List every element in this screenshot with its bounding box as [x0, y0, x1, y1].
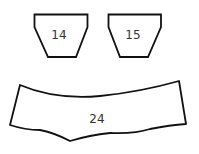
- piece-24-label: 24: [89, 112, 104, 126]
- piece-15-label: 15: [125, 28, 140, 42]
- piece-15[interactable]: 15: [109, 15, 162, 58]
- puzzle-diagram: 14 15 24: [0, 0, 199, 154]
- piece-24[interactable]: 24: [10, 81, 186, 141]
- piece-14[interactable]: 14: [35, 15, 88, 58]
- piece-14-label: 14: [51, 28, 66, 42]
